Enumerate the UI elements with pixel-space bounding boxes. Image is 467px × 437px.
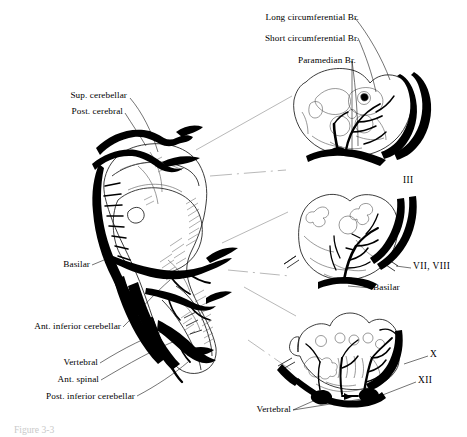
label-basilar-artery-section: Basilar bbox=[373, 283, 400, 292]
pons-nerve-stumps bbox=[284, 256, 299, 268]
label-cranial-nerve-vii-viii: VII, VIII bbox=[413, 262, 450, 271]
label-cranial-nerve-iii: III bbox=[403, 176, 414, 185]
label-vertebral-artery-bottom: Vertebral bbox=[256, 405, 291, 414]
posterior-cerebral-artery bbox=[96, 126, 203, 155]
midbrain-arteries bbox=[306, 72, 431, 166]
label-short-circumferential-branch: Short circumferential Br. bbox=[265, 34, 359, 43]
shading-hatch bbox=[144, 157, 213, 344]
medulla-cross-section bbox=[277, 313, 403, 408]
label-superior-cerebellar-artery: Sup. cerebellar bbox=[70, 91, 127, 100]
label-cranial-nerve-xii: XII bbox=[418, 376, 432, 385]
label-anterior-inferior-cerebellar-artery: Ant. inferior cerebellar bbox=[34, 322, 121, 331]
main-brainstem-drawing bbox=[92, 126, 238, 382]
label-posterior-cerebral-artery: Post. cerebral bbox=[72, 107, 123, 116]
figure-caption: Figure 3-3 bbox=[14, 424, 54, 435]
label-posterior-inferior-cerebellar-artery: Post. inferior cerebellar bbox=[46, 392, 135, 401]
medulla-arteries bbox=[277, 329, 403, 407]
pons-internal-structures bbox=[304, 203, 376, 278]
label-anterior-spinal-artery: Ant. spinal bbox=[58, 375, 99, 384]
midbrain-cross-section bbox=[294, 69, 432, 167]
label-paramedian-branch: Paramedian Br. bbox=[298, 56, 356, 65]
label-long-circumferential-branch: Long circumferential Br. bbox=[266, 13, 359, 22]
midbrain-internal-structures bbox=[302, 88, 386, 149]
pons-cross-section bbox=[284, 194, 417, 290]
anatomical-figure: Long circumferential Br. Short circumfer… bbox=[0, 0, 467, 437]
illustration-artwork bbox=[0, 0, 467, 437]
label-basilar-artery-main: Basilar bbox=[63, 260, 90, 269]
label-vertebral-artery-left: Vertebral bbox=[63, 358, 98, 367]
label-cranial-nerve-x: X bbox=[430, 350, 437, 359]
